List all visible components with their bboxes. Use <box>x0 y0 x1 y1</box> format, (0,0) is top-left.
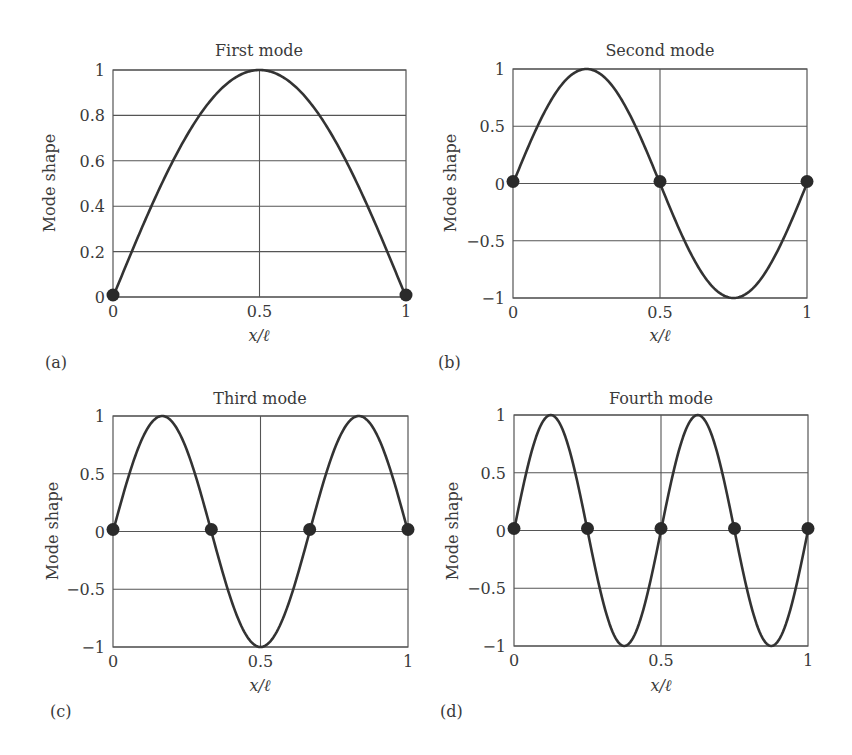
panel-a-xlabel: x/ℓ <box>248 326 269 345</box>
panel-c-plot: −1−0.500.5100.51 <box>66 407 414 671</box>
panel-c-ylabel: Mode shape <box>43 482 62 581</box>
y-tick-label: 0 <box>95 523 105 542</box>
panel-b-second-mode: Second mode −1−0.500.5100.51 Mode shape … <box>438 41 814 372</box>
y-tick-label: 0.6 <box>80 152 105 171</box>
y-tick-label: 0.5 <box>480 117 505 136</box>
panel-a-tag: (a) <box>45 353 67 372</box>
x-tick-label: 0 <box>509 651 519 670</box>
panel-c-tag: (c) <box>50 702 71 721</box>
panel-d-title: Fourth mode <box>609 389 713 408</box>
x-tick-label: 1 <box>403 652 413 671</box>
panel-c-xlabel: x/ℓ <box>249 676 270 695</box>
y-tick-label: 0.2 <box>80 243 105 262</box>
node-point <box>655 522 668 535</box>
node-point <box>728 522 741 535</box>
y-tick-label: 0.8 <box>80 106 105 125</box>
y-tick-label: −1 <box>481 289 505 308</box>
x-tick-label: 0.5 <box>248 652 273 671</box>
x-tick-label: 1 <box>802 303 812 322</box>
panel-d-xlabel: x/ℓ <box>650 676 671 695</box>
y-tick-label: 0 <box>95 288 105 307</box>
y-tick-label: 0.5 <box>481 464 506 483</box>
y-tick-label: −1 <box>81 638 105 657</box>
panel-b-title: Second mode <box>605 41 714 60</box>
panel-b-plot: −1−0.500.5100.51 <box>466 60 813 322</box>
y-tick-label: 1 <box>95 407 105 426</box>
node-point <box>508 522 521 535</box>
node-point <box>107 523 120 536</box>
panel-d-fourth-mode: Fourth mode −1−0.500.5100.51 Mode shape … <box>440 389 815 721</box>
y-tick-label: 0 <box>496 522 506 541</box>
node-point <box>205 523 218 536</box>
panel-c-third-mode: Third mode −1−0.500.5100.51 Mode shape x… <box>43 389 415 721</box>
panel-c-title: Third mode <box>213 389 307 408</box>
panel-a-ylabel: Mode shape <box>40 134 59 233</box>
node-point <box>107 289 120 302</box>
y-tick-label: 0.5 <box>80 465 105 484</box>
x-tick-label: 0.5 <box>247 302 272 321</box>
x-tick-label: 0 <box>108 302 118 321</box>
panel-a-first-mode: First mode 00.20.40.60.8100.51 Mode shap… <box>40 41 413 372</box>
y-tick-label: −0.5 <box>467 579 506 598</box>
panel-b-ylabel: Mode shape <box>441 134 460 233</box>
x-tick-label: 0.5 <box>648 651 673 670</box>
x-tick-label: 1 <box>401 302 411 321</box>
panel-a-plot: 00.20.40.60.8100.51 <box>80 61 413 321</box>
y-tick-label: 0.4 <box>80 197 105 216</box>
panel-d-plot: −1−0.500.5100.51 <box>467 406 814 670</box>
node-point <box>801 175 814 188</box>
mode-shapes-figure: First mode 00.20.40.60.8100.51 Mode shap… <box>0 0 852 755</box>
panel-b-tag: (b) <box>438 353 461 372</box>
x-tick-label: 1 <box>803 651 813 670</box>
node-point <box>654 175 667 188</box>
y-tick-label: 1 <box>95 61 105 80</box>
x-tick-label: 0 <box>508 303 518 322</box>
node-point <box>507 175 520 188</box>
x-tick-label: 0.5 <box>647 303 672 322</box>
node-point <box>303 523 316 536</box>
node-point <box>802 522 815 535</box>
y-tick-label: −0.5 <box>66 580 105 599</box>
node-point <box>400 289 413 302</box>
panel-d-tag: (d) <box>440 702 463 721</box>
y-tick-label: 1 <box>495 60 505 79</box>
y-tick-label: −0.5 <box>466 232 505 251</box>
y-tick-label: 1 <box>496 406 506 425</box>
node-point <box>402 523 415 536</box>
panel-b-xlabel: x/ℓ <box>649 326 670 345</box>
x-tick-label: 0 <box>108 652 118 671</box>
panel-d-ylabel: Mode shape <box>443 482 462 581</box>
panel-a-title: First mode <box>215 41 303 60</box>
y-tick-label: 0 <box>495 175 505 194</box>
y-tick-label: −1 <box>482 637 506 656</box>
node-point <box>581 522 594 535</box>
